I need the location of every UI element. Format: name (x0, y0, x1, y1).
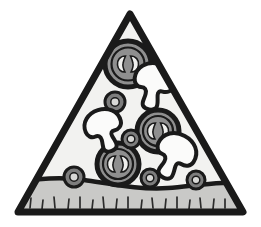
illustration-canvas: Pizza Slice (0, 0, 261, 227)
olive-4 (141, 169, 159, 187)
olive-2 (122, 130, 140, 148)
pizza-slice-illustration (0, 0, 261, 227)
olive-5 (187, 171, 205, 189)
olive-3 (64, 167, 84, 187)
